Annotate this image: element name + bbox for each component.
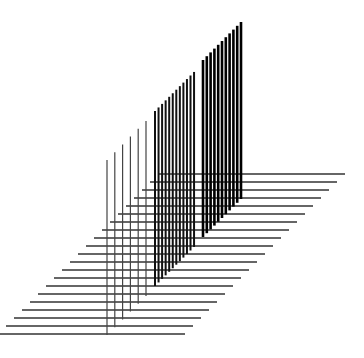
vertical-lines [107,22,241,335]
geometric-line-artwork [0,0,364,358]
